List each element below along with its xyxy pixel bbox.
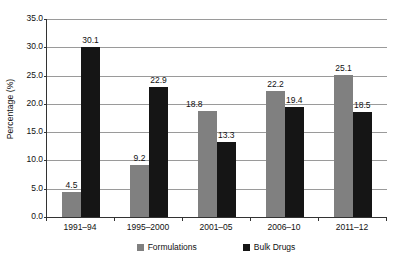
y-tick-label: 0.0 [31, 211, 43, 221]
x-tick-label: 1991–94 [46, 222, 114, 232]
bar-value-label: 13.3 [218, 130, 235, 140]
legend-item-formulations: Formulations [137, 242, 197, 252]
x-tick-mark [386, 218, 387, 221]
bar-bulk [149, 87, 168, 217]
bar-value-label: 18.5 [354, 100, 371, 110]
y-tick-label: 10.0 [26, 154, 43, 164]
bar-bulk [353, 112, 372, 217]
bar-value-label: 9.2 [134, 153, 146, 163]
y-tick-label: 25.0 [26, 70, 43, 80]
x-tick-label: 2001–05 [182, 222, 250, 232]
bar-value-label: 30.1 [82, 35, 99, 45]
bar-group: 18.813.3 [183, 19, 251, 217]
bar-formulations [266, 91, 285, 217]
x-tick-mark [114, 218, 115, 221]
x-tick-label: 2011–12 [318, 222, 386, 232]
gray-square-icon [137, 244, 144, 251]
bar-formulations [198, 111, 217, 217]
legend-label-formulations: Formulations [148, 242, 197, 252]
bar-group: 4.530.1 [47, 19, 115, 217]
bar-formulations [130, 165, 149, 217]
x-tick-mark [182, 218, 183, 221]
bar-value-label: 19.4 [286, 95, 303, 105]
y-axis-title: Percentage (%) [2, 0, 18, 218]
legend-label-bulk-drugs: Bulk Drugs [254, 242, 296, 252]
bar-bulk [285, 107, 304, 217]
bar-formulations [334, 75, 353, 217]
bar-value-label: 22.2 [267, 79, 284, 89]
bar-bulk [217, 142, 236, 217]
black-square-icon [243, 244, 250, 251]
x-tick-mark [46, 218, 47, 221]
bar-group: 25.118.5 [319, 19, 387, 217]
bar-formulations [62, 192, 81, 217]
x-tick-mark [250, 218, 251, 221]
bar-value-label: 25.1 [335, 63, 352, 73]
y-tick-label: 5.0 [31, 183, 43, 193]
y-tick-label: 15.0 [26, 126, 43, 136]
x-tick-mark [318, 218, 319, 221]
plot-area: 0.05.010.015.020.025.030.035.04.530.19.2… [46, 19, 387, 218]
x-tick-label: 1995–2000 [114, 222, 182, 232]
chart-legend: Formulations Bulk Drugs [46, 242, 386, 252]
bar-value-label: 18.8 [186, 99, 203, 109]
bar-bulk [81, 47, 100, 217]
y-axis-title-text: Percentage (%) [5, 79, 15, 139]
legend-item-bulk-drugs: Bulk Drugs [243, 242, 296, 252]
bar-group: 22.219.4 [251, 19, 319, 217]
bar-group: 9.222.9 [115, 19, 183, 217]
y-tick-label: 30.0 [26, 41, 43, 51]
y-tick-label: 35.0 [26, 13, 43, 23]
bar-chart: Percentage (%) 0.05.010.015.020.025.030.… [0, 0, 408, 268]
x-tick-label: 2006–10 [250, 222, 318, 232]
y-tick-label: 20.0 [26, 98, 43, 108]
bar-value-label: 4.5 [66, 180, 78, 190]
bar-value-label: 22.9 [150, 75, 167, 85]
